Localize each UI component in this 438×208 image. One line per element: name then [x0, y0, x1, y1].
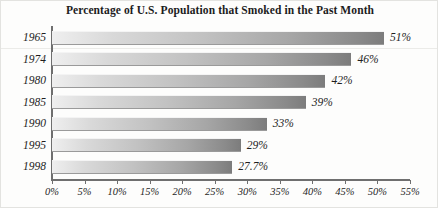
bar-value-label: 42% [325, 70, 352, 92]
year-label: 1985 [2, 92, 46, 114]
bar-row: 198539% [1, 92, 437, 114]
chart-title: Percentage of U.S. Population that Smoke… [1, 4, 438, 16]
bar-row: 199033% [1, 113, 437, 135]
year-label: 1990 [2, 113, 46, 135]
x-tick [312, 180, 313, 184]
chart-container: Percentage of U.S. Population that Smoke… [0, 0, 438, 208]
bar-value-label: 29% [241, 135, 268, 157]
bar-value-label: 39% [306, 92, 333, 114]
bar-row: 198042% [1, 70, 437, 92]
bar[interactable] [52, 95, 306, 109]
bar[interactable] [52, 52, 351, 66]
x-tick [345, 180, 346, 184]
bar[interactable] [52, 160, 232, 174]
bar[interactable] [52, 74, 325, 88]
bar-value-label: 33% [267, 113, 294, 135]
x-tick [150, 180, 151, 184]
bar[interactable] [52, 31, 384, 45]
year-label: 1974 [2, 49, 46, 71]
bar-row: 197446% [1, 49, 437, 71]
x-tick [377, 180, 378, 184]
x-tick-label: 55% [390, 186, 430, 197]
bar-row: 199529% [1, 135, 437, 157]
x-axis-line [51, 179, 410, 181]
x-tick [280, 180, 281, 184]
bar-value-label: 27.7% [232, 156, 268, 178]
x-tick [182, 180, 183, 184]
year-label: 1980 [2, 70, 46, 92]
x-tick [52, 180, 53, 184]
year-label: 1965 [2, 27, 46, 49]
x-tick [410, 180, 411, 184]
bar-row: 196551% [1, 27, 437, 49]
x-tick [117, 180, 118, 184]
bar[interactable] [52, 117, 267, 131]
bar-value-label: 46% [351, 49, 378, 71]
x-tick [247, 180, 248, 184]
x-tick [85, 180, 86, 184]
bar-row: 199827.7% [1, 156, 437, 178]
bar[interactable] [52, 138, 241, 152]
x-tick [215, 180, 216, 184]
year-label: 1998 [2, 156, 46, 178]
year-label: 1995 [2, 135, 46, 157]
bar-value-label: 51% [384, 27, 411, 49]
